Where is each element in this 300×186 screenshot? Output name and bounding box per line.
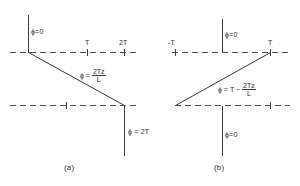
panel-a-equation-denominator: L [92,75,106,83]
panel-b-top-boundary-label: ϕ=0 [225,31,238,38]
panel-b-tick-label-T: T [268,39,272,46]
panel-a-top-boundary-label: ϕ=0 [31,28,44,35]
panel-a-equation-lead: ϕ = [80,72,90,79]
panel-b-diagonal-equation: ϕ = T − 2Tz L [218,82,256,97]
figure-root: ϕ=0 T 2T ϕ = 2Tz L ϕ = 2T (a) ϕ=0 -T T ϕ… [0,0,300,186]
panel-a-equation-fraction: 2Tz L [92,68,106,83]
panel-b-tick-label-negative-T: -T [168,39,175,46]
panel-a-bottom-boundary-label: ϕ = 2T [128,128,149,135]
panel-b-equation-denominator: L [242,89,256,97]
panel-b-bottom-boundary-label: ϕ=0 [225,131,238,138]
panel-a-diagonal-line [29,53,125,106]
panel-a-equation-numerator: 2Tz [92,68,106,75]
panel-a-tick-label-2T: 2T [119,39,128,46]
panel-b-equation-numerator: 2Tz [242,82,256,89]
panel-a-tick-label-T: T [85,39,89,46]
panel-b-diagonal-line [176,53,271,106]
panel-a-graphics [10,15,140,156]
panel-b-equation-fraction: 2Tz L [242,82,256,97]
panel-b-equation-lead: ϕ = T − [218,86,240,93]
panel-b-caption: (b) [214,164,224,172]
panel-a-diagonal-equation: ϕ = 2Tz L [80,68,106,83]
panel-a-caption: (a) [64,164,74,172]
